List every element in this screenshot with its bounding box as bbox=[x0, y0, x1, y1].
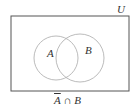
set-b-circle bbox=[56, 34, 104, 82]
diagram-caption: A ∩ B bbox=[0, 93, 135, 107]
caption-complement-set: A bbox=[54, 94, 61, 106]
caption-other-set: B bbox=[74, 94, 81, 106]
set-b-label: B bbox=[85, 44, 92, 56]
set-a-label: A bbox=[46, 47, 54, 59]
universe-label: U bbox=[117, 3, 126, 15]
caption-operator: ∩ bbox=[61, 94, 74, 106]
